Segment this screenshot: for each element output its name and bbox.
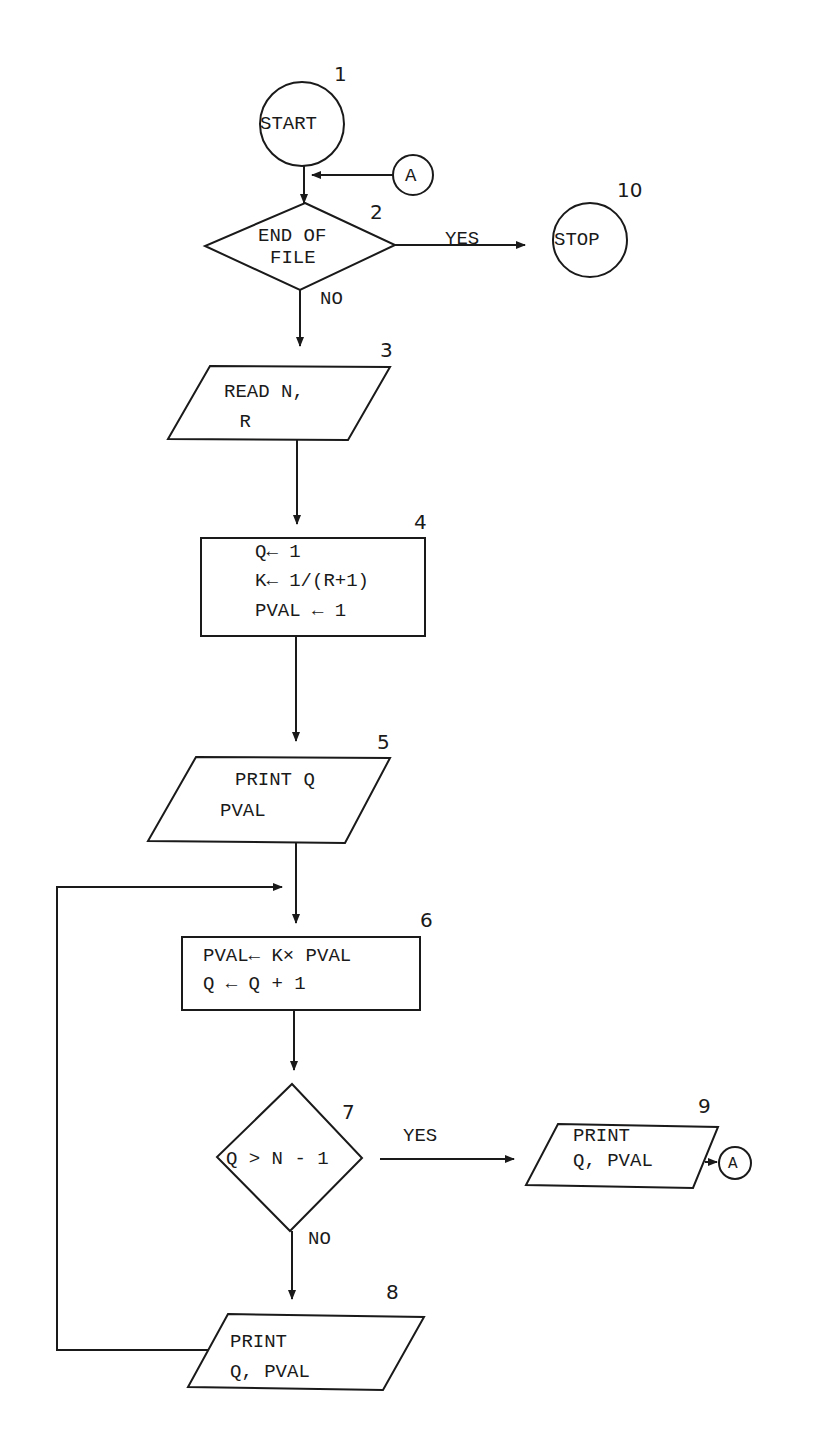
init-line-1: Q← 1 [255,540,301,564]
connector-a-out-label: A [728,1152,738,1176]
node-number-1: 1 [334,62,347,86]
print5-line-1: PRINT Q [235,768,315,792]
node-number-5: 5 [377,730,390,754]
node-number-4: 4 [414,510,427,534]
print8-line-1: PRINT [230,1330,287,1354]
stop-label: STOP [554,228,600,252]
decision7-no-label: NO [308,1228,331,1250]
node-number-6: 6 [420,908,433,932]
flowchart-graphics [0,0,830,1438]
update-line-2: Q ← Q + 1 [203,972,306,996]
node-number-2: 2 [370,200,383,224]
read-line-1: READ N, [224,380,304,404]
connector-a-in-label: A [405,164,416,188]
decision2-no-label: NO [320,288,343,310]
decision2-yes-label: YES [445,228,479,250]
read-line-2: R [228,410,251,434]
init-line-3: PVAL ← 1 [255,599,346,623]
print9-line-1: PRINT [573,1124,630,1148]
node-number-7: 7 [342,1100,355,1124]
node-number-3: 3 [380,338,393,362]
node-number-8: 8 [386,1280,399,1304]
flowchart-canvas: 1 2 3 4 5 6 7 8 9 10 START A END OF FILE… [0,0,830,1438]
decision7-yes-label: YES [403,1125,437,1147]
update-line-1: PVAL← K× PVAL [203,944,351,968]
decision2-line-2: FILE [270,246,316,270]
node-number-9: 9 [698,1094,711,1118]
decision2-line-1: END OF [258,224,326,248]
print9-line-2: Q, PVAL [573,1149,653,1173]
init-line-2: K← 1/(R+1) [255,569,369,593]
print5-line-2: PVAL [220,799,266,823]
node-number-10: 10 [617,178,642,202]
decision7-label: Q > N - 1 [226,1147,329,1171]
print8-line-2: Q, PVAL [230,1360,310,1384]
start-label: START [260,112,317,136]
